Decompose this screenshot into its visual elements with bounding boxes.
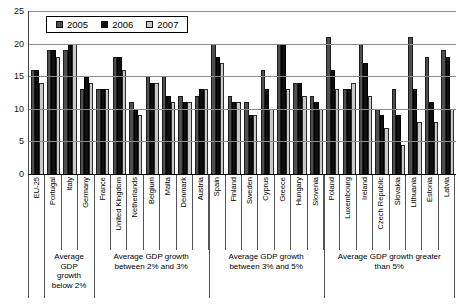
bar-group-Poland xyxy=(325,11,341,174)
bar-group-France xyxy=(95,11,111,174)
bar-group-Sweden xyxy=(242,11,258,174)
bar-Netherlands-2007 xyxy=(138,115,142,174)
bar-group-Cyprus xyxy=(259,11,275,174)
bar-group-EU-25 xyxy=(29,11,45,174)
bar-group-Slovenia xyxy=(308,11,324,174)
bar-Lithuania-2007 xyxy=(417,122,421,174)
bar-Ireland-2007 xyxy=(368,96,372,174)
gridline xyxy=(29,141,456,142)
bar-group-Latvia xyxy=(440,11,456,174)
bar-group-Denmark xyxy=(177,11,193,174)
bar-France-2007 xyxy=(105,89,109,174)
plot-area xyxy=(28,11,456,175)
bar-group-Germany xyxy=(78,11,94,174)
bar-group-United Kingdom xyxy=(111,11,127,174)
y-tick-label: 15 xyxy=(0,71,24,81)
legend-swatch-2007 xyxy=(146,21,153,28)
bar-group-Spain xyxy=(210,11,226,174)
y-tick-label: 10 xyxy=(0,104,24,114)
bar-group-Estonia xyxy=(423,11,439,174)
legend-label-2007: 2007 xyxy=(157,19,178,30)
bar-Luxembourg-2007 xyxy=(351,83,355,174)
group-divider xyxy=(454,175,455,298)
bar-group-Belgium xyxy=(144,11,160,174)
legend-swatch-2005 xyxy=(56,21,63,28)
gridline xyxy=(29,76,456,77)
bar-group-Luxembourg xyxy=(341,11,357,174)
bars xyxy=(29,11,456,174)
y-tick-label: 0 xyxy=(0,169,24,179)
bar-EU-25-2007 xyxy=(39,83,43,174)
group-axis: Average GDP growth below 2%Average GDP g… xyxy=(28,175,455,298)
group-label: Average GDP growth greater than 5% xyxy=(324,252,455,271)
legend-label-2006: 2006 xyxy=(112,19,133,30)
bar-Finland-2007 xyxy=(236,102,240,174)
bar-Estonia-2007 xyxy=(434,122,438,174)
bar-group-Malta xyxy=(160,11,176,174)
bar-Poland-2007 xyxy=(335,89,339,174)
y-tick-label: 5 xyxy=(0,136,24,146)
bar-group-Hungary xyxy=(292,11,308,174)
group-label: Average GDP growth between 3% and 5% xyxy=(209,252,324,271)
legend-swatch-2006 xyxy=(101,21,108,28)
bar-group-Netherlands xyxy=(128,11,144,174)
bar-Austria-2007 xyxy=(204,89,208,174)
bar-Belgium-2007 xyxy=(154,83,158,174)
bar-group-Czech Republic xyxy=(374,11,390,174)
bar-Czech Republic-2007 xyxy=(384,128,388,174)
bar-group-Greece xyxy=(275,11,291,174)
legend-item-2006: 2006 xyxy=(101,19,133,30)
y-tick-label: 20 xyxy=(0,39,24,49)
legend-label-2005: 2005 xyxy=(67,19,88,30)
bar-group-Ireland xyxy=(357,11,373,174)
gridline xyxy=(29,11,456,12)
bar-Slovakia-2007 xyxy=(401,145,405,174)
bar-group-Finland xyxy=(226,11,242,174)
bar-group-Austria xyxy=(193,11,209,174)
bar-group-Slovakia xyxy=(390,11,406,174)
gridline xyxy=(29,44,456,45)
gridline xyxy=(29,109,456,110)
bar-Portugal-2007 xyxy=(56,57,60,174)
bar-Hungary-2007 xyxy=(302,96,306,174)
group-divider xyxy=(209,175,210,298)
bar-group-Lithuania xyxy=(407,11,423,174)
bar-Greece-2007 xyxy=(286,89,290,174)
legend-item-2007: 2007 xyxy=(146,19,178,30)
gdp-growth-bar-chart: 0510152025 2005 2006 2007 EU-25PortugalI… xyxy=(0,0,458,305)
group-divider xyxy=(28,175,29,298)
group-divider xyxy=(94,175,95,298)
group-divider xyxy=(324,175,325,298)
legend: 2005 2006 2007 xyxy=(46,16,188,33)
group-label: Average GDP growth below 2% xyxy=(44,252,93,290)
y-tick-label: 25 xyxy=(0,6,24,16)
bar-United Kingdom-2007 xyxy=(122,70,126,174)
bar-Denmark-2007 xyxy=(187,102,191,174)
bar-group-Italy xyxy=(62,11,78,174)
group-label: Average GDP growth between 2% and 3% xyxy=(94,252,209,271)
bar-group-Portugal xyxy=(45,11,61,174)
bar-Spain-2007 xyxy=(220,63,224,174)
bar-Germany-2007 xyxy=(89,83,93,174)
bar-Malta-2007 xyxy=(171,102,175,174)
legend-item-2005: 2005 xyxy=(56,19,88,30)
bar-Sweden-2007 xyxy=(253,115,257,174)
